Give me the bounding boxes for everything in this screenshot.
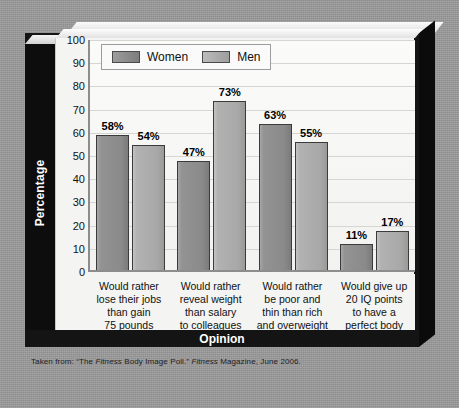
bar-men-4[interactable]: 17% <box>376 231 409 270</box>
y-axis-tick-20: 20 <box>73 220 85 232</box>
category-label-line: lose their jobs <box>88 293 170 306</box>
bar-women-3[interactable]: 63% <box>259 124 292 270</box>
y-axis-tick-90: 90 <box>73 57 85 69</box>
category-label-line: than salary <box>170 306 252 319</box>
bar-group-1: 58%54% <box>90 40 171 270</box>
source-text: Body Image Poll.” <box>122 357 192 366</box>
source-text: Taken from: “The <box>31 357 95 366</box>
legend-label-women: Women <box>147 50 188 64</box>
bar-value-label: 55% <box>300 127 322 139</box>
bar-value-label: 58% <box>102 120 124 132</box>
bar-value-label: 54% <box>138 130 160 142</box>
plot-area: 58%54%47%73%63%55%11%17% <box>88 40 415 272</box>
y-axis-title-rail: Percentage <box>25 44 55 341</box>
bar-value-label: 63% <box>264 109 286 121</box>
poster-background: Percentage Women Men <box>0 0 459 408</box>
category-label-line: Would give up <box>333 280 415 293</box>
plaque-right-bevel <box>419 20 435 347</box>
source-text: Magazine, June 2006. <box>218 357 301 366</box>
y-axis-tick-80: 80 <box>73 80 85 92</box>
source-caption: Taken from: “The Fitness Body Image Poll… <box>31 357 301 366</box>
bar-value-label: 11% <box>346 229 367 241</box>
y-axis-tick-100: 100 <box>67 34 85 46</box>
y-axis-tick-50: 50 <box>73 150 85 162</box>
bar-groups: 58%54%47%73%63%55%11%17% <box>90 40 415 270</box>
bar-men-3[interactable]: 55% <box>295 142 328 270</box>
legend-swatch-men-icon <box>202 51 230 63</box>
y-axis-tick-60: 60 <box>73 127 85 139</box>
legend-swatch-women-icon <box>112 51 140 63</box>
y-axis-tick-30: 30 <box>73 196 85 208</box>
chart-legend: Women Men <box>101 44 271 70</box>
category-label-line: reveal weight <box>170 293 252 306</box>
y-axis-tick-10: 10 <box>73 243 85 255</box>
card-top-bevel <box>56 29 423 38</box>
bar-group-2: 47%73% <box>171 40 252 270</box>
plaque-body: Percentage Women Men <box>25 33 419 347</box>
y-axis-tick-0: 0 <box>79 266 85 278</box>
category-label-line: to have a <box>333 306 415 319</box>
category-label-line: be poor and <box>252 293 334 306</box>
y-axis-tick-70: 70 <box>73 104 85 116</box>
category-label-line: Would rather <box>170 280 252 293</box>
legend-label-men: Men <box>237 50 260 64</box>
y-axis-tick-column: 1009080706050403020100 <box>56 40 88 272</box>
source-emphasis: Fitness <box>95 357 122 366</box>
legend-item-women[interactable]: Women <box>112 50 188 64</box>
bar-value-label: 17% <box>381 216 403 228</box>
plot-wrapper: 1009080706050403020100 58%54%47%73%63%55… <box>56 40 415 272</box>
source-emphasis: Fitness <box>191 357 218 366</box>
bar-value-label: 47% <box>183 146 205 158</box>
bar-men-2[interactable]: 73% <box>213 101 246 270</box>
category-label-line: 20 IQ points <box>333 293 415 306</box>
y-axis-tick-40: 40 <box>73 173 85 185</box>
chart-card: Women Men 1009080706050403020100 58%54%4… <box>55 38 414 341</box>
bar-women-4[interactable]: 11% <box>340 244 373 270</box>
category-label-line: than gain <box>88 306 170 319</box>
bar-women-2[interactable]: 47% <box>177 161 210 270</box>
chart-plaque: Percentage Women Men <box>25 22 435 347</box>
legend-item-men[interactable]: Men <box>202 50 260 64</box>
category-label-line: Would rather <box>88 280 170 293</box>
x-axis-title-bar: Opinion <box>25 330 419 347</box>
bar-women-1[interactable]: 58% <box>96 135 129 270</box>
bar-men-1[interactable]: 54% <box>132 145 165 270</box>
bar-group-4: 11%17% <box>334 40 415 270</box>
category-label-line: Would rather <box>252 280 334 293</box>
x-axis-title: Opinion <box>199 332 244 346</box>
category-label-line: thin than rich <box>252 306 334 319</box>
bar-group-3: 63%55% <box>253 40 334 270</box>
y-axis-title: Percentage <box>33 159 47 226</box>
bar-value-label: 73% <box>219 86 241 98</box>
